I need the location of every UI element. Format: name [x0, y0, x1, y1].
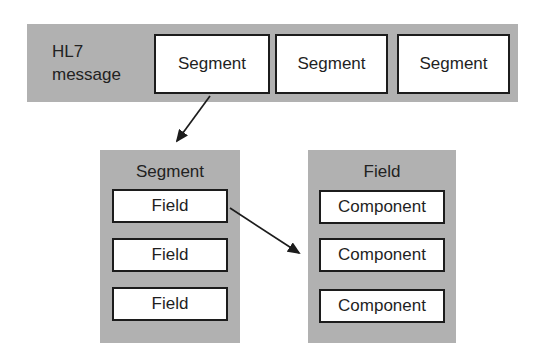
- component-box-1: Component: [319, 190, 445, 224]
- component-box-2: Component: [319, 238, 445, 272]
- field-box-1: Field: [112, 189, 228, 223]
- field-panel-title: Field: [308, 162, 456, 182]
- hl7-message-label: HL7 message: [52, 40, 121, 86]
- hl7-structure-diagram: HL7 message Segment Segment Segment Segm…: [0, 0, 534, 360]
- segment-box-2: Segment: [275, 34, 388, 94]
- field-box-2: Field: [112, 238, 228, 272]
- segment-box-3: Segment: [397, 34, 510, 94]
- field-box-3: Field: [112, 287, 228, 321]
- arrow-field-to-detail: [230, 208, 299, 253]
- field-detail-panel: Field Component Component Component: [308, 150, 456, 343]
- component-box-3: Component: [319, 289, 445, 323]
- segment-detail-panel: Segment Field Field Field: [100, 150, 240, 343]
- hl7-message-bar: HL7 message Segment Segment Segment: [27, 24, 518, 102]
- segment-panel-title: Segment: [100, 162, 240, 182]
- arrow-segment-to-detail: [177, 96, 210, 141]
- segment-box-1: Segment: [154, 34, 270, 94]
